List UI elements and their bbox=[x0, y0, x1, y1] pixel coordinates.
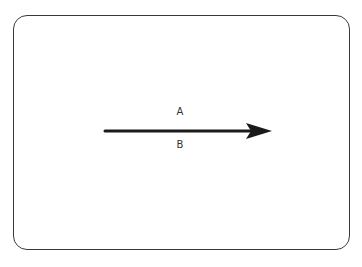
arrow-label-above: A bbox=[177, 106, 184, 117]
arrow-label-below: B bbox=[177, 139, 184, 150]
diagram-canvas bbox=[0, 0, 362, 267]
